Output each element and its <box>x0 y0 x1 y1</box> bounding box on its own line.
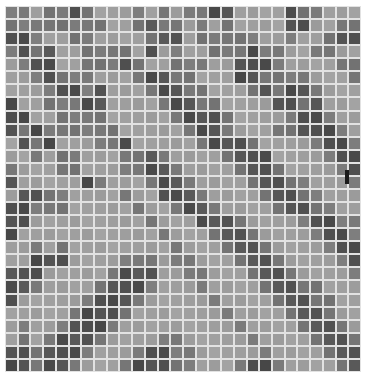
mosaic-tile <box>57 295 68 306</box>
mosaic-tile <box>120 242 131 253</box>
mosaic-tile <box>95 72 106 83</box>
mosaic-tile <box>286 229 297 240</box>
mosaic-tile <box>120 190 131 201</box>
mosaic-tile <box>44 112 55 123</box>
mosaic-tile <box>235 321 246 332</box>
mosaic-tile <box>159 151 170 162</box>
mosaic-tile <box>298 347 309 358</box>
mosaic-tile <box>197 190 208 201</box>
mosaic-tile <box>248 164 259 175</box>
mosaic-tile <box>120 281 131 292</box>
mosaic-tile <box>159 98 170 109</box>
mosaic-tile <box>6 308 17 319</box>
mosaic-tile <box>146 281 157 292</box>
mosaic-tile <box>248 7 259 18</box>
mosaic-tile <box>82 281 93 292</box>
mosaic-tile <box>57 72 68 83</box>
mosaic-tile <box>260 268 271 279</box>
mosaic-tile <box>311 347 322 358</box>
mosaic-tile <box>31 125 42 136</box>
mosaic-tile <box>248 72 259 83</box>
mosaic-tile <box>209 190 220 201</box>
mosaic-tile <box>298 255 309 266</box>
mosaic-tile <box>133 203 144 214</box>
mosaic-tile <box>57 255 68 266</box>
mosaic-tile <box>324 164 335 175</box>
mosaic-tile <box>311 72 322 83</box>
mosaic-tile <box>57 268 68 279</box>
mosaic-tile <box>108 242 119 253</box>
mosaic-tile <box>82 177 93 188</box>
mosaic-tile <box>120 125 131 136</box>
mosaic-tile <box>95 255 106 266</box>
mosaic-tile <box>184 125 195 136</box>
mosaic-tile <box>133 112 144 123</box>
mosaic-tile <box>184 164 195 175</box>
mosaic-tile <box>298 229 309 240</box>
mosaic-tile <box>70 72 81 83</box>
mosaic-tile <box>337 308 348 319</box>
mosaic-tile <box>146 347 157 358</box>
mosaic-tile <box>31 190 42 201</box>
mosaic-tile <box>273 59 284 70</box>
mosaic-tile <box>260 347 271 358</box>
mosaic-tile <box>120 138 131 149</box>
mosaic-tile <box>235 177 246 188</box>
mosaic-tile <box>184 112 195 123</box>
mosaic-tile <box>108 295 119 306</box>
mosaic-tile <box>146 334 157 345</box>
mosaic-tile <box>19 242 30 253</box>
mosaic-tile <box>95 33 106 44</box>
mosaic-tile <box>197 321 208 332</box>
mosaic-tile <box>57 281 68 292</box>
mosaic-tile <box>209 308 220 319</box>
mosaic-tile <box>146 151 157 162</box>
mosaic-tile <box>337 334 348 345</box>
mosaic-tile <box>260 177 271 188</box>
mosaic-tile <box>298 33 309 44</box>
mosaic-tile <box>184 203 195 214</box>
mosaic-tile <box>197 216 208 227</box>
mosaic-tile <box>108 190 119 201</box>
mosaic-tile <box>133 268 144 279</box>
mosaic-tile <box>146 20 157 31</box>
mosaic-tile <box>44 360 55 371</box>
mosaic-tile <box>337 321 348 332</box>
mosaic-tile <box>171 20 182 31</box>
mosaic-tile <box>108 321 119 332</box>
mosaic-tile <box>120 46 131 57</box>
mosaic-tile <box>70 321 81 332</box>
mosaic-tile <box>298 72 309 83</box>
mosaic-tile <box>273 98 284 109</box>
mosaic-tile <box>209 360 220 371</box>
mosaic-tile <box>260 334 271 345</box>
mosaic-tile <box>159 112 170 123</box>
mosaic-tile <box>70 151 81 162</box>
mosaic-tile <box>248 268 259 279</box>
mosaic-tile <box>146 164 157 175</box>
mosaic-tile <box>120 59 131 70</box>
mosaic-tile <box>57 164 68 175</box>
mosaic-tile <box>57 229 68 240</box>
mosaic-tile <box>82 229 93 240</box>
mosaic-tile <box>31 98 42 109</box>
mosaic-tile <box>146 308 157 319</box>
mosaic-tile <box>146 255 157 266</box>
mosaic-tile <box>349 203 360 214</box>
mosaic-tile <box>298 164 309 175</box>
mosaic-tile <box>324 7 335 18</box>
dark-marker <box>345 170 349 184</box>
mosaic-tile <box>44 308 55 319</box>
mosaic-tile <box>349 33 360 44</box>
mosaic-tile <box>82 308 93 319</box>
mosaic-tile <box>70 112 81 123</box>
mosaic-tile <box>286 308 297 319</box>
mosaic-tile <box>159 33 170 44</box>
mosaic-tile <box>95 151 106 162</box>
mosaic-tile <box>120 255 131 266</box>
mosaic-tile <box>159 203 170 214</box>
mosaic-tile <box>120 177 131 188</box>
mosaic-tile <box>95 125 106 136</box>
mosaic-tile <box>184 20 195 31</box>
mosaic-tile <box>324 177 335 188</box>
